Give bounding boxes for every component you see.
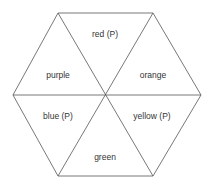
sector-label-bottom: green: [94, 152, 116, 162]
sector-label-upper-right: orange: [140, 70, 167, 80]
sector-label-upper-left: purple: [46, 70, 70, 80]
sector-label-lower-left: blue (P): [43, 111, 73, 121]
sector-label-top: red (P): [92, 29, 118, 39]
hexagon-diagram: red (P) orange yellow (P) green blue (P)…: [0, 0, 208, 187]
sector-label-lower-right: yellow (P): [133, 111, 170, 121]
